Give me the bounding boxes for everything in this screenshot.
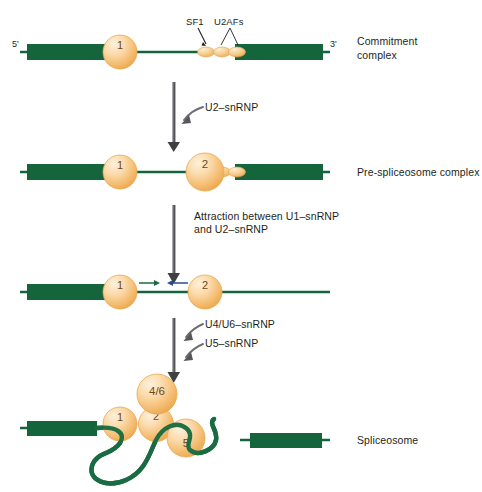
u2af-leader-line-a [221,28,230,45]
snrnp-u1-label: 1 [117,411,123,423]
stage-commitment-complex: 1 [20,28,330,69]
sf1-factor [198,47,215,57]
splicing-factor-group [198,47,246,57]
transition-u5-label: U5–snRNP [205,337,258,350]
u2af-leader-line-b [230,28,238,45]
attraction-arrow-left [167,280,188,286]
sf1-label: SF1 [186,15,204,28]
stage-spliceosome: 1 2 4/6 5 [20,374,330,483]
stage-label-commitment-complex-line1: Commitment [357,34,418,48]
exon-left [27,44,115,60]
three-prime-label: 3' [330,38,337,51]
stage-label-pre-spliceosome-complex: Pre-spliceosome complex [357,165,480,179]
transition-u4u6-u5 [168,318,204,383]
stage-label-commitment-complex-line2: complex [357,48,397,62]
exon-right [250,433,322,448]
exon-left [27,164,115,180]
five-prime-label: 5' [12,38,19,51]
stage-pre-spliceosome-complex: 1 2 [20,153,330,191]
attraction-arrow-right [139,280,160,286]
snrnp-u1-label: 1 [117,279,123,291]
snrnp-u1-label: 1 [117,159,123,171]
transition-arrow-shaft [172,318,175,374]
sf1-leader-line [198,28,206,44]
attraction-arrow-left-head [167,280,173,286]
transition-attraction-label-line1: Attraction between U1–snRNP [194,210,339,223]
transition-arrow-shaft [172,82,175,142]
transition-attraction [168,205,181,284]
snrnp-u4-u6-label: 4/6 [149,385,165,397]
transition-arrow-shaft [172,205,175,275]
spliceosome-assembly-diagram: 1 1 2 [0,0,482,492]
exon-right [235,164,323,180]
transition-arrow-head [168,142,181,152]
figure-canvas: 1 1 2 [0,0,482,492]
transition-u4u6-label: U4/U6–snRNP [205,318,275,331]
u2af-factor-a [214,47,231,57]
exon-right [235,44,323,60]
transition-u2 [168,82,204,152]
attraction-arrow-right-head [154,280,160,286]
snrnp-u2-label: 2 [202,279,208,291]
snrnp-u2-label: 2 [202,158,208,170]
transition-attraction-label-line2: and U2–snRNP [194,223,268,236]
stage-label-spliceosome: Spliceosome [357,433,418,447]
exon-left [27,284,115,300]
transition-u2-label: U2–snRNP [205,101,258,114]
u2af-factor-b [229,47,246,57]
u2af-factor-b [229,167,246,177]
exon-left [27,421,97,436]
u2afs-label: U2AFs [214,15,244,28]
snrnp-u1-label: 1 [117,39,123,51]
